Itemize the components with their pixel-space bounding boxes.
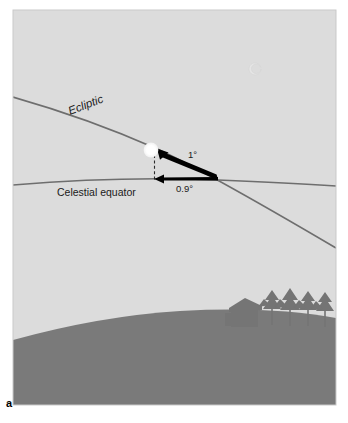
figure-panel: Ecliptic Celestial equator 1° 0.9° a	[0, 0, 348, 423]
angle-ecliptic-label: 1°	[188, 149, 197, 160]
celestial-equator-label: Celestial equator	[57, 186, 136, 198]
astronomy-diagram-svg: Ecliptic Celestial equator 1° 0.9°	[0, 0, 348, 423]
sun-disc	[144, 143, 159, 158]
panel-letter-label: a	[6, 398, 12, 409]
angle-equator-label: 0.9°	[176, 183, 193, 194]
